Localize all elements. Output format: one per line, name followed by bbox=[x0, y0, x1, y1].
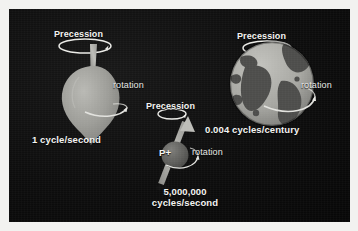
earth-precession-ellipse bbox=[243, 41, 291, 55]
proton-rotation-label: rotation bbox=[192, 147, 223, 157]
top-rate-label: 1 cycle/second bbox=[32, 135, 101, 146]
top-precession-label: Precession bbox=[54, 29, 103, 39]
diagram-panel: Precession rotation 1 cycle/second Prece… bbox=[9, 9, 350, 222]
top-precession-ellipse bbox=[59, 39, 111, 53]
earth-precession-label: Precession bbox=[237, 31, 286, 41]
earth-continents bbox=[231, 43, 310, 125]
earth-rotation-label: rotation bbox=[301, 80, 332, 90]
earth-rate-label: 0.004 cycles/century bbox=[205, 125, 299, 136]
proton-symbol-label: P+ bbox=[159, 148, 171, 159]
proton-rate-line2: cycles/second bbox=[139, 198, 231, 209]
earth-rotation-arc bbox=[264, 88, 315, 111]
top-rotation-label: rotation bbox=[113, 80, 144, 90]
spinning-top-graphic bbox=[59, 39, 127, 145]
top-rotation-arc bbox=[85, 104, 127, 116]
figure-stage: Precession rotation 1 cycle/second Prece… bbox=[0, 0, 358, 231]
proton-precession-label: Precession bbox=[146, 101, 195, 111]
